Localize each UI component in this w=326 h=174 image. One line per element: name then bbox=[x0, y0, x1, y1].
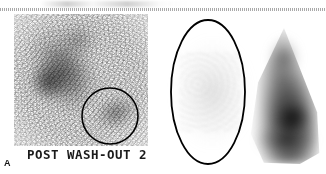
faint-region-speckle bbox=[180, 52, 240, 132]
lung-uptake-hilum bbox=[276, 102, 310, 132]
lung-uptake-apex bbox=[268, 32, 300, 76]
lung-uptake-base bbox=[254, 128, 316, 162]
scan-burned-in-label: POST WASH-OUT 2 bbox=[27, 147, 147, 162]
scan-edge-dotted-line bbox=[0, 8, 326, 11]
lung-uptake-region bbox=[244, 24, 324, 166]
left-scan-image bbox=[14, 14, 148, 146]
figure-panel: POST WASH-OUT 2 A bbox=[0, 0, 326, 174]
scan-edge-smudge bbox=[40, 1, 190, 7]
right-scan-image bbox=[166, 14, 326, 166]
figure-panel-letter: A bbox=[4, 159, 11, 168]
